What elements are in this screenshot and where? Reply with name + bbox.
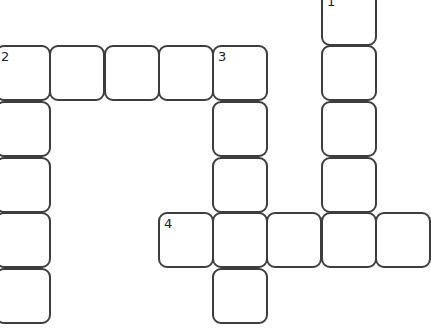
crossword-cell[interactable] xyxy=(212,212,268,268)
crossword-cell[interactable] xyxy=(0,268,51,324)
crossword-cell[interactable] xyxy=(158,45,214,101)
crossword-cell[interactable] xyxy=(212,268,268,324)
crossword-cell[interactable] xyxy=(212,101,268,157)
clue-number: 2 xyxy=(1,50,9,64)
crossword-cell[interactable] xyxy=(212,157,268,213)
crossword-cell[interactable] xyxy=(0,157,51,213)
crossword-cell[interactable] xyxy=(321,101,377,157)
crossword-cell[interactable] xyxy=(375,212,431,268)
clue-number: 3 xyxy=(218,50,226,64)
crossword-cell[interactable] xyxy=(266,212,322,268)
crossword-cell-1[interactable]: 1 xyxy=(321,0,377,46)
crossword-cell-2[interactable]: 2 xyxy=(0,45,51,101)
clue-number: 4 xyxy=(164,217,172,231)
crossword-cell[interactable] xyxy=(321,45,377,101)
crossword-cell[interactable] xyxy=(0,101,51,157)
crossword-cell[interactable] xyxy=(0,212,51,268)
crossword-cell[interactable] xyxy=(49,45,105,101)
crossword-cell[interactable] xyxy=(321,157,377,213)
crossword-cell-3[interactable]: 3 xyxy=(212,45,268,101)
clue-number: 1 xyxy=(327,0,335,9)
crossword-cell-4[interactable]: 4 xyxy=(158,212,214,268)
crossword-cell[interactable] xyxy=(104,45,160,101)
crossword-cell[interactable] xyxy=(321,212,377,268)
